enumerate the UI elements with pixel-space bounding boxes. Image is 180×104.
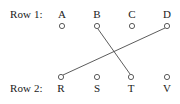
row-2-label: Row 2: (10, 83, 43, 94)
node-label-A: A (55, 9, 69, 20)
node-circle-S[interactable] (94, 74, 99, 79)
node-circle-T[interactable] (128, 74, 133, 79)
node-label-D: D (160, 9, 174, 20)
bipartite-matching-diagram: Row 1: Row 2: ABCD RSTV (0, 0, 180, 104)
node-circle-R[interactable] (58, 74, 63, 79)
node-label-T: T (124, 83, 138, 94)
node-circle-B[interactable] (94, 23, 99, 28)
node-label-R: R (54, 83, 68, 94)
node-circle-C[interactable] (129, 23, 134, 28)
node-label-S: S (90, 83, 104, 94)
edge-group (63, 28, 165, 75)
node-label-C: C (125, 9, 139, 20)
node-label-B: B (90, 9, 104, 20)
row-1-label: Row 1: (10, 9, 43, 20)
node-circle-A[interactable] (59, 23, 64, 28)
node-circle-D[interactable] (164, 23, 169, 28)
edge-D-to-R (63, 28, 165, 75)
node-circle-V[interactable] (164, 74, 169, 79)
node-label-V: V (160, 83, 174, 94)
